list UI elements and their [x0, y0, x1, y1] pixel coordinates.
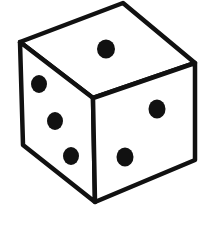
pip-left-1	[31, 75, 47, 93]
pip-top-1	[97, 40, 115, 59]
pip-left-2	[47, 112, 63, 130]
die-illustration	[0, 0, 211, 234]
pip-right-1	[149, 100, 166, 119]
die-icon	[0, 0, 211, 234]
pip-right-2	[117, 148, 134, 167]
pip-left-3	[63, 147, 79, 165]
